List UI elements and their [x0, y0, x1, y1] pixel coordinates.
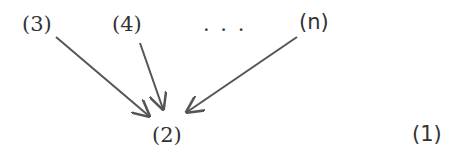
arrow-4-to-2 — [140, 43, 163, 109]
node-4: (4) — [112, 14, 142, 35]
node-1: (1) — [412, 124, 442, 145]
arrow-n-to-2 — [187, 37, 297, 112]
node-2: (2) — [152, 125, 182, 146]
node-n: (n) — [299, 12, 329, 33]
ellipsis: . . . — [203, 14, 246, 35]
arrow-3-to-2 — [56, 37, 149, 116]
node-3: (3) — [22, 14, 52, 35]
